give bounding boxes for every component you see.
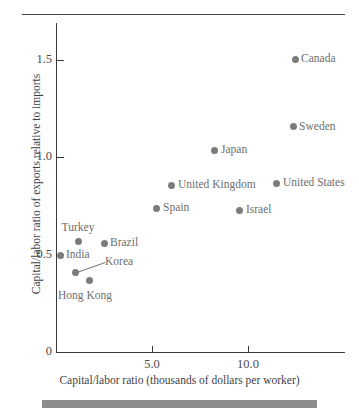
data-point-japan: [211, 147, 218, 154]
x-tick-label-10.0: 10.0: [218, 357, 278, 372]
data-label-korea: Korea: [105, 255, 133, 267]
data-label-india: India: [66, 248, 90, 260]
x-tick-10.0: [248, 346, 249, 353]
scatter-plot: 1.5 1.0 0.5 0 5.0 10.0 CanadaSwedenJapan…: [0, 0, 359, 419]
bottom-gray-bar: [42, 400, 317, 408]
data-label-united-states: United States: [283, 176, 345, 188]
data-point-turkey: [75, 238, 82, 245]
data-label-sweden: Sweden: [299, 120, 335, 132]
data-label-united-kingdom: United Kingdom: [178, 178, 256, 190]
data-point-spain: [153, 205, 160, 212]
data-point-india: [57, 252, 64, 259]
y-axis-title: Capital/labor ratio of exports relative …: [30, 64, 42, 304]
y-tick-label-1.5: 1.5: [0, 52, 52, 67]
data-label-japan: Japan: [221, 143, 247, 155]
y-tick-label-0.5: 0.5: [0, 247, 52, 262]
data-point-united-kingdom: [168, 182, 175, 189]
y-tick-1.0: [57, 157, 64, 158]
data-label-turkey: Turkey: [62, 221, 95, 233]
data-point-sweden: [290, 123, 297, 130]
data-point-canada: [292, 56, 299, 63]
leader-line-korea: [77, 262, 105, 273]
data-label-brazil: Brazil: [110, 236, 138, 248]
data-point-israel: [236, 207, 243, 214]
figure-container: 1.5 1.0 0.5 0 5.0 10.0 CanadaSwedenJapan…: [0, 0, 359, 419]
x-tick-5.0: [152, 346, 153, 353]
y-tick-1.5: [57, 60, 64, 61]
y-tick-label-1.0: 1.0: [0, 149, 52, 164]
data-label-israel: Israel: [246, 203, 272, 215]
data-point-united-states: [273, 180, 280, 187]
y-axis-line: [56, 23, 57, 353]
data-point-brazil: [101, 240, 108, 247]
data-point-hong-kong: [86, 277, 93, 284]
x-axis-line: [56, 352, 345, 353]
x-tick-label-5.0: 5.0: [122, 357, 182, 372]
data-label-hong-kong: Hong Kong: [58, 289, 112, 301]
data-label-canada: Canada: [301, 52, 335, 64]
y-tick-label-0: 0: [0, 344, 52, 359]
data-label-spain: Spain: [163, 201, 189, 213]
x-axis-title: Capital/labor ratio (thousands of dollar…: [0, 374, 359, 386]
